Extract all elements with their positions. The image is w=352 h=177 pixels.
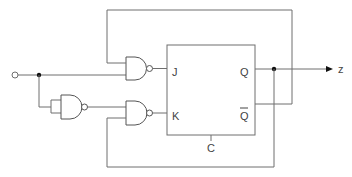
- nand-gate-top: [126, 57, 147, 80]
- inverter-tied-inputs: [51, 100, 61, 113]
- nand-top-bubble-icon: [147, 66, 153, 72]
- jk-flipflop-circuit: J K Q Q C z: [0, 0, 352, 177]
- input-terminal-icon: [12, 72, 18, 78]
- label-q: Q: [240, 66, 249, 78]
- output-arrow-icon: [326, 66, 333, 72]
- nand-inverter-bubble-icon: [82, 104, 88, 110]
- label-k: K: [172, 110, 180, 122]
- label-qbar: Q: [240, 110, 249, 122]
- label-output-z: z: [338, 63, 344, 75]
- nand-gate-inverter: [61, 95, 82, 119]
- label-clock: C: [207, 142, 215, 154]
- nand-gate-bottom: [126, 101, 147, 125]
- nand-bottom-bubble-icon: [147, 110, 153, 116]
- inverter-input-wire: [39, 75, 51, 107]
- label-j: J: [172, 66, 178, 78]
